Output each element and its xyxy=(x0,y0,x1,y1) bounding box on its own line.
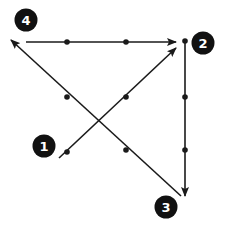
badge-number: 3 xyxy=(161,200,170,215)
waypoint-dot xyxy=(123,147,129,153)
waypoint-dot xyxy=(123,94,129,100)
waypoint-dot xyxy=(64,39,70,45)
vertex-dot xyxy=(182,38,188,44)
waypoint-dot xyxy=(182,147,188,153)
step-badge-1: 1 xyxy=(33,135,56,158)
step-badge-4: 4 xyxy=(15,9,38,32)
stroke-order-diagram: 1234 xyxy=(0,0,226,229)
step-badge-2: 2 xyxy=(192,32,215,55)
dots xyxy=(64,38,188,155)
arrow-3-to-4 xyxy=(11,40,181,196)
waypoint-dot xyxy=(123,39,129,45)
badge-number: 2 xyxy=(198,36,207,51)
waypoint-dot xyxy=(64,149,70,155)
step-badge-3: 3 xyxy=(155,196,178,219)
waypoint-dot xyxy=(64,94,70,100)
badge-number: 4 xyxy=(21,13,30,28)
waypoint-dot xyxy=(182,94,188,100)
arrows xyxy=(11,40,185,196)
arrow-1-to-2 xyxy=(59,48,176,158)
badge-number: 1 xyxy=(39,139,48,154)
